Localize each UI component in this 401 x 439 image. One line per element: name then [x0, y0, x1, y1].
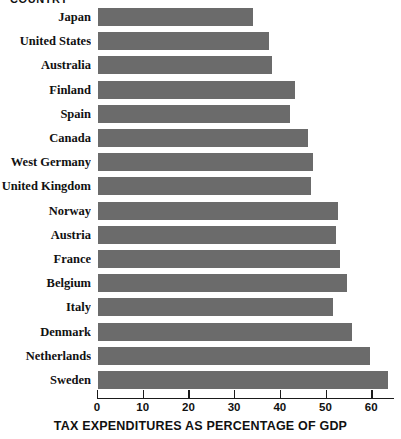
- category-label: Denmark: [0, 320, 91, 344]
- bar: [98, 371, 388, 389]
- bar: [98, 298, 333, 316]
- category-label: Australia: [0, 53, 91, 77]
- x-axis-tick: [371, 390, 372, 398]
- bar: [98, 32, 269, 50]
- chart-row: Canada: [0, 126, 401, 150]
- bar: [98, 81, 295, 99]
- chart-row: Japan: [0, 5, 401, 29]
- x-axis-line: [97, 398, 394, 399]
- category-label: Canada: [0, 126, 91, 150]
- bar: [98, 226, 336, 244]
- category-label: Sweden: [0, 368, 91, 392]
- chart-row: Finland: [0, 78, 401, 102]
- chart-row: United States: [0, 29, 401, 53]
- bar: [98, 177, 311, 195]
- x-axis-tick: [188, 390, 189, 398]
- x-axis-tick: [280, 390, 281, 398]
- bar: [98, 8, 253, 26]
- chart-row: Denmark: [0, 320, 401, 344]
- chart-row: West Germany: [0, 150, 401, 174]
- chart-row: United Kingdom: [0, 174, 401, 198]
- x-axis-tick-label: 40: [273, 401, 286, 413]
- chart-row: Australia: [0, 53, 401, 77]
- chart-row: France: [0, 247, 401, 271]
- category-label: United States: [0, 29, 91, 53]
- chart-row: Sweden: [0, 368, 401, 392]
- x-axis-title: TAX EXPENDITURES AS PERCENTAGE OF GDP: [0, 419, 401, 433]
- plot-area: JapanUnited StatesAustraliaFinlandSpainC…: [0, 4, 401, 391]
- x-axis-tick-label: 60: [365, 401, 378, 413]
- bar-chart: COUNTRY JapanUnited StatesAustraliaFinla…: [0, 0, 401, 439]
- x-axis-tick-label: 10: [136, 401, 149, 413]
- bar: [98, 202, 338, 220]
- category-label: Spain: [0, 102, 91, 126]
- x-axis-tick-label: 20: [182, 401, 195, 413]
- category-label: Norway: [0, 199, 91, 223]
- chart-row: Belgium: [0, 271, 401, 295]
- category-label: Japan: [0, 5, 91, 29]
- x-axis-tick-label: 0: [94, 401, 100, 413]
- x-axis-tick: [97, 390, 98, 398]
- x-axis-tick-label: 30: [228, 401, 241, 413]
- bar: [98, 129, 308, 147]
- x-axis-tick-label: 50: [319, 401, 332, 413]
- chart-row: Norway: [0, 199, 401, 223]
- bar: [98, 153, 313, 171]
- chart-row: Netherlands: [0, 344, 401, 368]
- category-label: Belgium: [0, 271, 91, 295]
- x-axis-tick: [234, 390, 235, 398]
- bar: [98, 274, 347, 292]
- category-label: Finland: [0, 78, 91, 102]
- chart-row: Italy: [0, 295, 401, 319]
- category-label: Italy: [0, 295, 91, 319]
- chart-row: Austria: [0, 223, 401, 247]
- category-label: United Kingdom: [0, 174, 91, 198]
- bar: [98, 250, 340, 268]
- category-label: Austria: [0, 223, 91, 247]
- bar: [98, 105, 290, 123]
- chart-row: Spain: [0, 102, 401, 126]
- x-axis-tick: [143, 390, 144, 398]
- bar: [98, 323, 352, 341]
- x-axis-tick: [326, 390, 327, 398]
- bar: [98, 347, 370, 365]
- category-label: Netherlands: [0, 344, 91, 368]
- bar: [98, 56, 272, 74]
- category-label: West Germany: [0, 150, 91, 174]
- category-label: France: [0, 247, 91, 271]
